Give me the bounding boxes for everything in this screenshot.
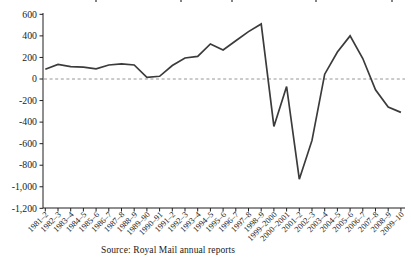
royal-mail-profit-chart: 6004002000-200-400-600-800-1,000-1,20019… xyxy=(0,0,411,265)
y-tick-label: -600 xyxy=(19,138,37,149)
y-tick-label: -400 xyxy=(19,116,37,127)
y-tick-label: -200 xyxy=(19,95,37,106)
profit-series-line xyxy=(45,24,401,179)
source-note: Source: Royal Mail annual reports xyxy=(101,245,235,255)
y-tick-label: -1,200 xyxy=(12,203,37,214)
y-tick-label: 400 xyxy=(22,30,37,41)
y-tick-label: 0 xyxy=(32,73,37,84)
chart-canvas: 6004002000-200-400-600-800-1,000-1,20019… xyxy=(0,0,411,265)
y-tick-label: 600 xyxy=(22,9,37,20)
y-tick-label: 200 xyxy=(22,52,37,63)
y-tick-label: -1,000 xyxy=(12,181,37,192)
y-tick-label: -800 xyxy=(19,159,37,170)
